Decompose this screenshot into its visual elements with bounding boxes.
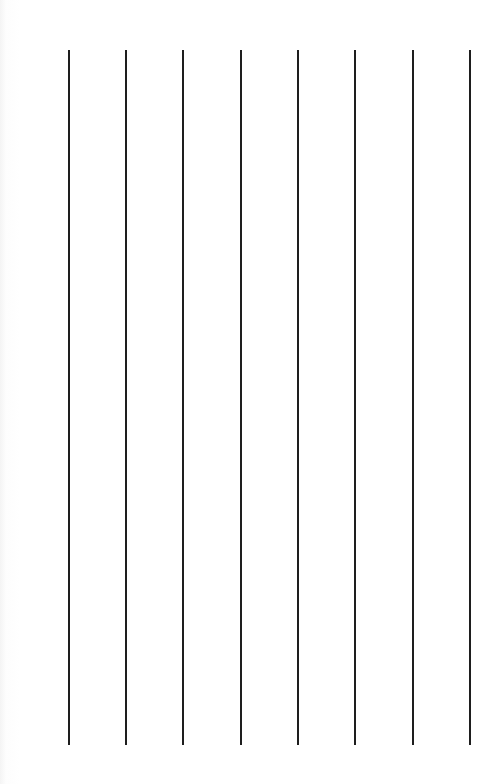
blank-canvas [0, 0, 490, 784]
vertical-line [354, 50, 356, 745]
vertical-line [412, 50, 414, 745]
vertical-line [68, 50, 70, 745]
vertical-line [125, 50, 127, 745]
vertical-line [182, 50, 184, 745]
vertical-line [297, 50, 299, 745]
vertical-line [469, 50, 471, 745]
vertical-line [240, 50, 242, 745]
